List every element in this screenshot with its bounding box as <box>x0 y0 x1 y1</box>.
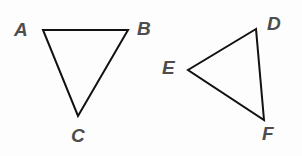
geometry-figure: A B C D E F <box>0 0 302 156</box>
vertex-label-b: B <box>137 19 151 38</box>
triangles-canvas <box>0 0 302 156</box>
vertex-label-c: C <box>71 126 85 145</box>
vertex-label-a: A <box>14 20 28 39</box>
figure-background <box>0 0 302 156</box>
vertex-label-e: E <box>162 58 175 77</box>
vertex-label-f: F <box>262 124 274 143</box>
vertex-label-d: D <box>267 14 281 33</box>
